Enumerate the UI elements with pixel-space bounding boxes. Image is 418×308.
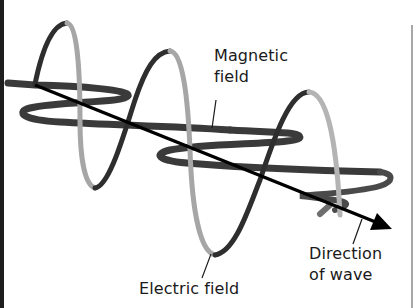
electric-field-label: Electric field [139,278,239,299]
magnetic-field-label: Magnetic field [214,45,288,87]
electric-label-text: Electric field [139,278,239,299]
magnetic-label-line1: Magnetic [214,45,288,66]
direction-leader-line [353,219,362,244]
magnetic-label-line2: field [214,66,288,87]
direction-label-line1: Direction [309,243,382,264]
direction-of-wave-label: Direction of wave [309,243,382,285]
magnetic-leader-line [212,100,216,128]
direction-label-line2: of wave [309,264,382,285]
em-wave-diagram: Magnetic field Electric field Direction … [0,0,418,308]
electric-leader-line [202,254,211,278]
direction-arrow [35,85,392,230]
